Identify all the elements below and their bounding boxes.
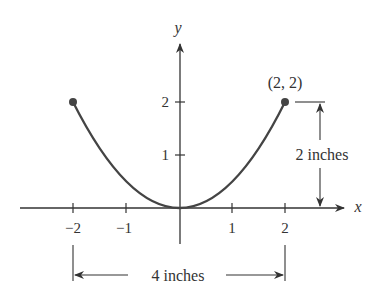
x-axis-label: x bbox=[353, 198, 361, 215]
x-tick-label: −2 bbox=[65, 220, 81, 236]
endpoint-left bbox=[69, 98, 77, 106]
y-tick-label: 2 bbox=[162, 94, 170, 110]
point-label: (2, 2) bbox=[268, 74, 303, 92]
endpoint-right bbox=[281, 98, 289, 106]
x-tick-label: −1 bbox=[116, 220, 132, 236]
parabola-figure: −2 −1 1 2 1 2 y x (2, 2) 2 inches 4 inch… bbox=[0, 0, 391, 307]
height-dim-label: 2 inches bbox=[296, 146, 349, 163]
x-tick-label: 1 bbox=[228, 220, 236, 236]
y-axis-label: y bbox=[172, 19, 182, 37]
y-tick-label: 1 bbox=[162, 147, 170, 163]
width-dim-label: 4 inches bbox=[152, 267, 205, 284]
x-tick-label: 2 bbox=[281, 220, 289, 236]
